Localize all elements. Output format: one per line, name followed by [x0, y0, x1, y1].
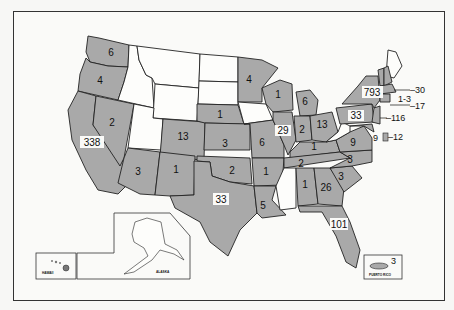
svg-text:26: 26 [320, 182, 332, 193]
svg-text:6: 6 [302, 96, 308, 107]
svg-text:1: 1 [173, 164, 179, 175]
svg-text:6: 6 [259, 137, 265, 148]
inset-hawaii: HAWAII [36, 253, 76, 279]
svg-text:1: 1 [263, 166, 269, 177]
svg-text:33: 33 [215, 194, 227, 205]
svg-text:6: 6 [108, 47, 114, 58]
state-wyo [153, 84, 199, 121]
svg-text:793: 793 [364, 87, 381, 98]
svg-text:3: 3 [391, 256, 396, 266]
svg-text:HAWAII: HAWAII [42, 271, 53, 275]
svg-text:9: 9 [373, 133, 378, 143]
svg-text:–116: –116 [386, 113, 405, 123]
svg-text:3: 3 [338, 171, 344, 182]
svg-text:1: 1 [217, 109, 223, 120]
svg-text:5: 5 [260, 200, 266, 211]
svg-text:1: 1 [302, 179, 308, 190]
inset-puerto-rico: 3 PUERTO RICO [364, 255, 402, 279]
state-sdak [198, 81, 238, 105]
svg-text:13: 13 [177, 131, 189, 142]
svg-text:2: 2 [299, 124, 305, 135]
svg-text:4: 4 [246, 74, 252, 85]
svg-text:1: 1 [311, 141, 317, 152]
us-map: 6 4 2 338 13 3 1 1 3 2 33 4 6 1 5 1 29 6… [0, 0, 454, 310]
state-ndak [199, 54, 238, 82]
svg-text:101: 101 [331, 219, 348, 230]
svg-text:1: 1 [275, 89, 281, 100]
svg-text:–12: –12 [388, 132, 403, 142]
svg-text:4: 4 [97, 75, 103, 86]
state-nj [372, 106, 380, 124]
svg-text:3: 3 [222, 138, 228, 149]
svg-text:338: 338 [84, 137, 101, 148]
state-fla [298, 206, 360, 268]
svg-text:2: 2 [109, 117, 115, 128]
svg-text:PUERTO RICO: PUERTO RICO [369, 273, 392, 277]
svg-text:9: 9 [350, 137, 356, 148]
svg-text:13: 13 [316, 119, 328, 130]
svg-text:33: 33 [350, 110, 362, 121]
svg-text:–17: –17 [410, 101, 425, 111]
svg-text:–30: –30 [410, 85, 425, 95]
svg-text:2: 2 [229, 165, 235, 176]
svg-text:29: 29 [277, 125, 289, 136]
svg-text:ALASKA: ALASKA [156, 270, 170, 274]
svg-text:3: 3 [135, 166, 141, 177]
svg-text:3: 3 [347, 154, 353, 165]
inset-alaska: ALASKA [77, 213, 190, 279]
svg-text:2: 2 [298, 158, 304, 169]
